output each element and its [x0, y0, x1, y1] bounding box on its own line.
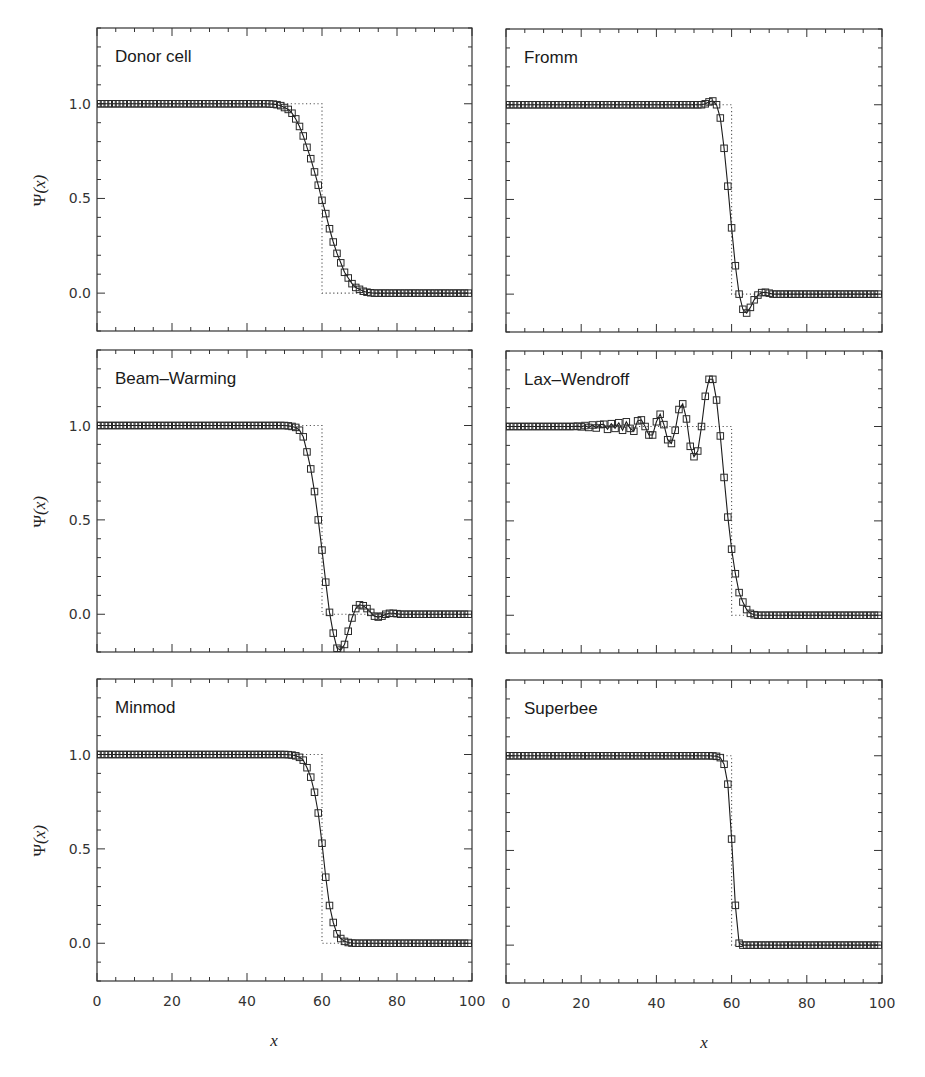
y-axis-label: Ψ(x) — [30, 825, 49, 857]
x-tick-label: 20 — [572, 995, 590, 1011]
psi-symbol: Ψ — [30, 515, 49, 528]
x-tick-label: 60 — [723, 995, 741, 1011]
plot-frame — [97, 679, 472, 981]
panel-superbee: 020406080100Superbee — [502, 680, 896, 1011]
panel-title: Minmod — [115, 698, 175, 717]
panel-title: Donor cell — [115, 47, 192, 66]
y-tick-label: 0.5 — [69, 190, 91, 206]
exact-solution-line — [506, 756, 882, 945]
plot-area — [94, 101, 472, 297]
x-tick-label: 40 — [238, 993, 256, 1009]
x-tick-label: 100 — [869, 995, 896, 1011]
psi-argument: (x) — [30, 174, 49, 193]
plot-frame — [97, 28, 472, 331]
x-tick-label: 80 — [798, 995, 816, 1011]
psi-symbol: Ψ — [30, 193, 49, 206]
plot-area — [503, 753, 882, 949]
y-axis-label: Ψ(x) — [30, 174, 49, 206]
panel-minmod: 0.00.51.0Ψ(x)020406080100Minmod — [30, 679, 485, 1009]
exact-solution-line — [506, 105, 882, 294]
figure-canvas: 0.00.51.0Ψ(x)Donor cellFromm0.00.51.0Ψ(x… — [0, 0, 925, 1077]
y-tick-label: 1.0 — [69, 747, 91, 763]
panel-title: Beam–Warming — [115, 369, 236, 388]
x-axis-label-left: x — [269, 1031, 278, 1050]
panel-title: Superbee — [524, 699, 598, 718]
psi-argument: (x) — [30, 496, 49, 515]
y-tick-label: 0.5 — [69, 512, 91, 528]
x-tick-label: 40 — [647, 995, 665, 1011]
plot-area — [503, 98, 882, 317]
y-tick-label: 0.5 — [69, 841, 91, 857]
y-axis-label: Ψ(x) — [30, 496, 49, 528]
y-tick-label: 0.0 — [69, 606, 91, 622]
numerical-solution-line — [506, 756, 878, 945]
numerical-solution-line — [97, 755, 468, 944]
psi-argument: (x) — [30, 825, 49, 844]
psi-symbol: Ψ — [30, 844, 49, 857]
y-tick-label: 1.0 — [69, 96, 91, 112]
exact-solution-line — [97, 104, 472, 293]
x-tick-label: 0 — [93, 993, 102, 1009]
x-tick-label: 100 — [459, 993, 486, 1009]
numerical-solution-line — [506, 379, 878, 615]
y-tick-label: 0.0 — [69, 285, 91, 301]
panels-group: 0.00.51.0Ψ(x)Donor cellFromm0.00.51.0Ψ(x… — [30, 28, 895, 1011]
y-tick-label: 0.0 — [69, 935, 91, 951]
panel-donor-cell: 0.00.51.0Ψ(x)Donor cell — [30, 28, 472, 331]
plot-frame — [506, 680, 882, 983]
x-tick-label: 60 — [313, 993, 331, 1009]
exact-solution-line — [506, 427, 882, 616]
plot-frame — [506, 351, 882, 653]
plot-area — [94, 751, 472, 946]
panel-title: Fromm — [524, 48, 578, 67]
exact-solution-line — [97, 426, 472, 615]
panel-lax-wendroff: Lax–Wendroff — [503, 351, 882, 653]
x-tick-label: 0 — [502, 995, 511, 1011]
panel-fromm: Fromm — [503, 29, 882, 332]
panel-beam-warming: 0.00.51.0Ψ(x)Beam–Warming — [30, 350, 472, 653]
x-axis-label-right: x — [699, 1033, 708, 1052]
plot-frame — [506, 29, 882, 332]
numerical-solution-line — [506, 101, 878, 313]
panel-title: Lax–Wendroff — [524, 370, 629, 389]
x-tick-label: 20 — [163, 993, 181, 1009]
plot-frame — [97, 350, 472, 652]
plot-area — [503, 376, 882, 618]
x-tick-label: 80 — [388, 993, 406, 1009]
numerical-solution-line — [97, 104, 468, 293]
exact-solution-line — [97, 755, 472, 944]
y-tick-label: 1.0 — [69, 418, 91, 434]
plot-area — [94, 422, 472, 653]
